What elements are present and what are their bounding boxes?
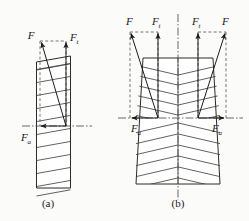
panel-a: F F t F a (a): [20, 29, 92, 210]
panel-a-label-Ft-subscript: t: [77, 38, 80, 46]
panel-b-label-Fa-right-subscript: a: [219, 129, 223, 137]
engineering-diagram: F F t F a (a): [0, 0, 249, 221]
panel-a-label-Fa-subscript: a: [28, 138, 32, 146]
panel-a-label-F: F: [27, 29, 35, 41]
panel-b-label-Fa-left-subscript: a: [138, 129, 142, 137]
panel-b-label-F-right: F: [221, 15, 229, 27]
panel-b-label-F-left: F: [125, 15, 133, 27]
panel-b-caption: (b): [172, 197, 185, 210]
panel-b-label-Ft-right-subscript: t: [199, 22, 202, 30]
panel-b-label-Ft-left-subscript: t: [159, 22, 162, 30]
figure-container: F F t F a (a): [0, 0, 249, 221]
panel-b: F F t F t F F a F a (b): [118, 14, 243, 210]
panel-a-caption: (a): [42, 197, 55, 210]
